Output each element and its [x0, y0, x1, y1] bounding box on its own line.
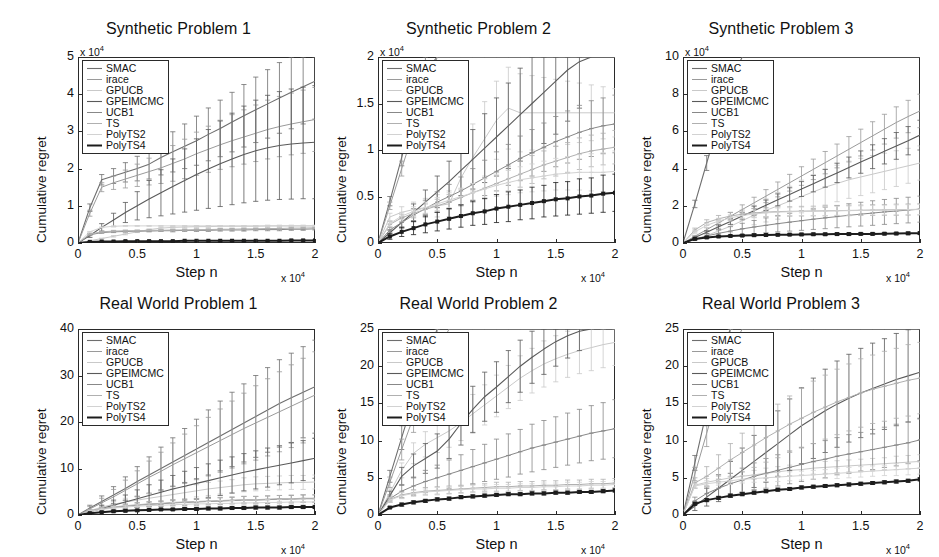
legend-swatch-polyts2	[86, 130, 103, 139]
y-tick-label: 0.5	[346, 189, 374, 203]
x-tick-mark	[315, 239, 316, 243]
legend: SMACiraceGPUCBGPEIMCMCUCB1TSPolyTS2PolyT…	[382, 332, 469, 426]
legend-swatch-irace	[86, 75, 103, 84]
x-tick-label: 0	[663, 247, 703, 261]
x-tick-mark	[920, 239, 921, 243]
panel-realworld-3: Real World Problem 30510152025Cumulative…	[618, 295, 939, 557]
x-tick-label: 1.5	[236, 247, 276, 261]
legend-swatch-polyts4	[386, 141, 403, 150]
x-tick-label: 1.5	[536, 519, 576, 533]
legend-item-polyts4: PolyTS4	[86, 140, 164, 151]
x-axis-label: Step n	[378, 536, 615, 552]
y-tick-label: 2	[346, 49, 374, 63]
legend-item-polyts4: PolyTS4	[691, 412, 769, 423]
x-axis-exponent: x 104	[886, 542, 910, 556]
x-tick-mark	[137, 239, 138, 243]
legend-swatch-gpucb	[86, 358, 103, 367]
x-tick-label: 1.5	[236, 519, 276, 533]
legend-label: PolyTS4	[711, 412, 751, 423]
x-tick-mark	[802, 239, 803, 243]
legend-swatch-smac	[386, 336, 403, 345]
y-tick-label: 2	[46, 161, 74, 175]
legend-swatch-ts	[691, 391, 708, 400]
x-tick-mark	[315, 511, 316, 515]
x-axis-exponent: x 104	[581, 270, 605, 284]
legend-swatch-ucb1	[86, 108, 103, 117]
legend-swatch-polyts4	[691, 413, 708, 422]
legend-swatch-ts	[386, 119, 403, 128]
y-tick-label: 4	[46, 86, 74, 100]
legend-swatch-smac	[691, 64, 708, 73]
x-tick-label: 1.5	[841, 247, 881, 261]
x-tick-label: 1.5	[536, 247, 576, 261]
x-tick-mark	[742, 511, 743, 515]
y-tick-label: 30	[46, 368, 74, 382]
y-tick-mark	[378, 197, 382, 198]
legend-item-polyts4: PolyTS4	[386, 140, 464, 151]
y-tick-label: 8	[651, 86, 679, 100]
y-tick-mark	[683, 478, 687, 479]
panel-realworld-1: Real World Problem 1010203040Cumulative …	[18, 295, 339, 557]
y-axis-label: Cumulative regret	[34, 408, 49, 515]
x-tick-label: 0.5	[722, 519, 762, 533]
legend-swatch-smac	[691, 336, 708, 345]
y-tick-mark	[78, 206, 82, 207]
legend-swatch-ts	[86, 119, 103, 128]
x-tick-label: 0	[58, 519, 98, 533]
panel-title: Synthetic Problem 3	[618, 20, 939, 38]
legend-swatch-polyts4	[386, 413, 403, 422]
x-axis-exponent: x 104	[281, 542, 305, 556]
x-tick-mark	[802, 511, 803, 515]
panel-synthetic-3: Synthetic Problem 30246810x 104Cumulativ…	[618, 20, 939, 301]
x-tick-mark	[683, 511, 684, 515]
x-tick-mark	[615, 239, 616, 243]
x-tick-label: 2	[900, 247, 939, 261]
legend-swatch-ts	[86, 391, 103, 400]
x-tick-mark	[378, 239, 379, 243]
legend: SMACiraceGPUCBGPEIMCMCUCB1TSPolyTS2PolyT…	[687, 332, 774, 426]
legend-swatch-polyts2	[386, 402, 403, 411]
y-tick-label: 3	[46, 123, 74, 137]
legend-swatch-ucb1	[691, 380, 708, 389]
legend-label: PolyTS4	[711, 140, 751, 151]
legend-swatch-irace	[386, 347, 403, 356]
x-tick-mark	[497, 239, 498, 243]
x-tick-label: 2	[900, 519, 939, 533]
panel-title: Real World Problem 3	[618, 295, 939, 313]
y-tick-label: 20	[651, 358, 679, 372]
legend-swatch-gpucb	[386, 86, 403, 95]
y-tick-label: 10	[346, 433, 374, 447]
x-tick-mark	[78, 511, 79, 515]
legend-swatch-polyts2	[86, 402, 103, 411]
panel-title: Real World Problem 2	[318, 295, 639, 313]
legend-swatch-gpeimcmc	[691, 369, 708, 378]
y-tick-label: 10	[651, 49, 679, 63]
x-tick-label: 0	[358, 519, 398, 533]
y-tick-mark	[378, 441, 382, 442]
panel-synthetic-1: Synthetic Problem 1012345x 104Cumulative…	[18, 20, 339, 301]
panel-synthetic-2: Synthetic Problem 200.511.52x 104Cumulat…	[318, 20, 639, 301]
y-tick-label: 6	[651, 123, 679, 137]
y-tick-mark	[78, 243, 82, 244]
y-tick-label: 20	[46, 414, 74, 428]
legend: SMACiraceGPUCBGPEIMCMCUCB1TSPolyTS2PolyT…	[687, 60, 774, 154]
x-tick-label: 0.5	[722, 247, 762, 261]
legend-item-polyts4: PolyTS4	[86, 412, 164, 423]
legend-swatch-gpucb	[691, 86, 708, 95]
panel-realworld-2: Real World Problem 20510152025Cumulative…	[318, 295, 639, 557]
legend-swatch-ucb1	[386, 108, 403, 117]
x-tick-label: 1	[177, 247, 217, 261]
y-tick-mark	[378, 515, 382, 516]
figure-root: Synthetic Problem 1012345x 104Cumulative…	[0, 0, 939, 557]
x-axis-label: Step n	[78, 264, 315, 280]
legend-swatch-polyts4	[691, 141, 708, 150]
y-tick-mark	[683, 441, 687, 442]
x-tick-mark	[78, 239, 79, 243]
legend-swatch-irace	[691, 75, 708, 84]
x-axis-label: Step n	[78, 536, 315, 552]
x-tick-mark	[256, 511, 257, 515]
x-tick-label: 1.5	[841, 519, 881, 533]
y-axis-label: Cumulative regret	[34, 136, 49, 243]
y-tick-label: 4	[651, 161, 679, 175]
x-tick-mark	[683, 239, 684, 243]
